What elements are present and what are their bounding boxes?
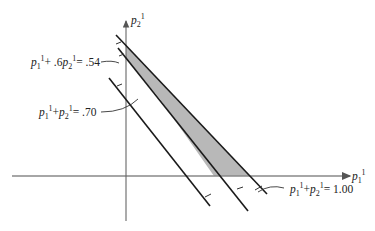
constraint-label-a: p11+p21= 1.00: [289, 181, 353, 198]
leader-line-b: [101, 61, 119, 63]
feasibility-diagram: p21 p11 p11+ .6p21= .54 p11+p21= .70 p11…: [0, 0, 375, 231]
constraint-line-b: [118, 48, 248, 211]
y-axis-label: p21: [130, 12, 145, 29]
leader-line-c: [101, 99, 138, 112]
constraint-label-b: p11+ .6p21= .54: [30, 54, 100, 71]
leader-line-a: [258, 187, 284, 192]
constraint-label-c: p11+p21= .70: [38, 104, 97, 121]
